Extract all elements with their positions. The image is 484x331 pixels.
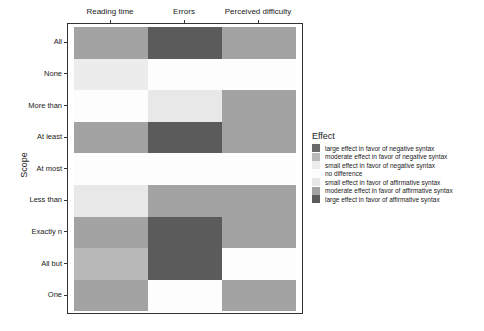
x-axis-label: Reading time xyxy=(70,7,150,16)
legend-swatch xyxy=(312,195,320,203)
legend-swatch xyxy=(312,178,320,186)
y-axis-label: All xyxy=(54,37,62,46)
legend-swatch xyxy=(312,144,320,152)
heatmap-cell xyxy=(148,122,222,154)
heatmap-cell xyxy=(148,59,222,91)
legend-label: small effect in favor of affirmative syn… xyxy=(325,179,440,186)
legend-swatch xyxy=(312,153,320,161)
legend-item: large effect in favor of affirmative syn… xyxy=(312,195,453,204)
heatmap-cell xyxy=(148,185,222,217)
heatmap-cell xyxy=(148,27,222,59)
y-axis-label: None xyxy=(44,69,62,78)
legend-item: small effect in favor of negative syntax xyxy=(312,161,453,170)
legend-label: moderate effect in favor of negative syn… xyxy=(325,153,447,160)
legend-swatch xyxy=(312,170,320,178)
heatmap-cell xyxy=(74,217,148,249)
y-axis-label: More than xyxy=(28,101,62,110)
heatmap-cell xyxy=(74,27,148,59)
legend-items: large effect in favor of negative syntax… xyxy=(312,144,453,204)
heatmap-cell xyxy=(222,185,296,217)
y-axis-label: At least xyxy=(37,132,62,141)
x-axis-label: Perceived difficulty xyxy=(218,7,298,16)
heatmap-cell xyxy=(222,90,296,122)
y-axis-label: Exactly n xyxy=(32,227,62,236)
heatmap-cell xyxy=(74,122,148,154)
plot-panel xyxy=(67,23,303,314)
legend-item: large effect in favor of negative syntax xyxy=(312,144,453,153)
heatmap-cell xyxy=(74,185,148,217)
heatmap-cell xyxy=(148,153,222,185)
heatmap-cell xyxy=(148,90,222,122)
legend-label: moderate effect in favor of affirmative … xyxy=(325,187,453,194)
heatmap-cell xyxy=(74,59,148,91)
y-axis-label: At most xyxy=(37,164,62,173)
y-axis-title: Scope xyxy=(19,147,29,183)
legend-title: Effect xyxy=(312,131,453,141)
x-axis-label: Errors xyxy=(144,7,224,16)
heatmap-cell xyxy=(222,248,296,280)
heatmap-cell xyxy=(74,280,148,312)
heatmap-cell xyxy=(148,280,222,312)
legend-swatch xyxy=(312,161,320,169)
y-axis-label: Less than xyxy=(29,195,62,204)
heatmap-cell xyxy=(222,217,296,249)
heatmap-cell xyxy=(222,59,296,91)
legend-item: small effect in favor of affirmative syn… xyxy=(312,178,453,187)
heatmap-cell xyxy=(148,248,222,280)
legend-swatch xyxy=(312,187,320,195)
legend: Effect large effect in favor of negative… xyxy=(312,131,453,204)
legend-label: large effect in favor of negative syntax xyxy=(325,145,434,152)
legend-label: large effect in favor of affirmative syn… xyxy=(325,196,440,203)
legend-item: moderate effect in favor of negative syn… xyxy=(312,153,453,162)
heatmap-cell xyxy=(74,248,148,280)
legend-item: no difference xyxy=(312,170,453,179)
heatmap-cell xyxy=(74,90,148,122)
heatmap-cell xyxy=(222,27,296,59)
legend-label: no difference xyxy=(325,170,362,177)
heatmap-cell xyxy=(222,122,296,154)
y-axis-label: One xyxy=(48,290,62,299)
legend-item: moderate effect in favor of affirmative … xyxy=(312,187,453,196)
heatmap-cell xyxy=(148,217,222,249)
y-axis-label: All but xyxy=(41,259,62,268)
heatmap-cell xyxy=(74,153,148,185)
heatmap-cell xyxy=(222,153,296,185)
heatmap-cell xyxy=(222,280,296,312)
legend-label: small effect in favor of negative syntax xyxy=(325,162,435,169)
